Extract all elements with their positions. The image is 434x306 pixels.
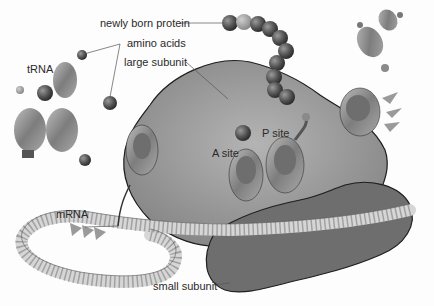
label-trna: tRNA bbox=[27, 64, 53, 75]
trna-exit bbox=[340, 64, 389, 136]
a-site-amino-acid bbox=[235, 125, 251, 141]
label-newly-born-protein: newly born protein bbox=[100, 18, 190, 29]
label-a-site: A site bbox=[212, 148, 239, 159]
ribosome-diagram: newly born protein amino acids large sub… bbox=[0, 0, 434, 306]
trna-incoming bbox=[126, 125, 158, 175]
label-p-site: P site bbox=[262, 128, 289, 139]
free-trna-right bbox=[352, 6, 403, 62]
label-small-subunit: small subunit bbox=[153, 281, 217, 292]
label-amino-acids: amino acids bbox=[127, 38, 186, 49]
label-mrna: mRNA bbox=[56, 209, 88, 220]
label-large-subunit: large subunit bbox=[124, 57, 187, 68]
free-amino-acid bbox=[103, 96, 117, 110]
